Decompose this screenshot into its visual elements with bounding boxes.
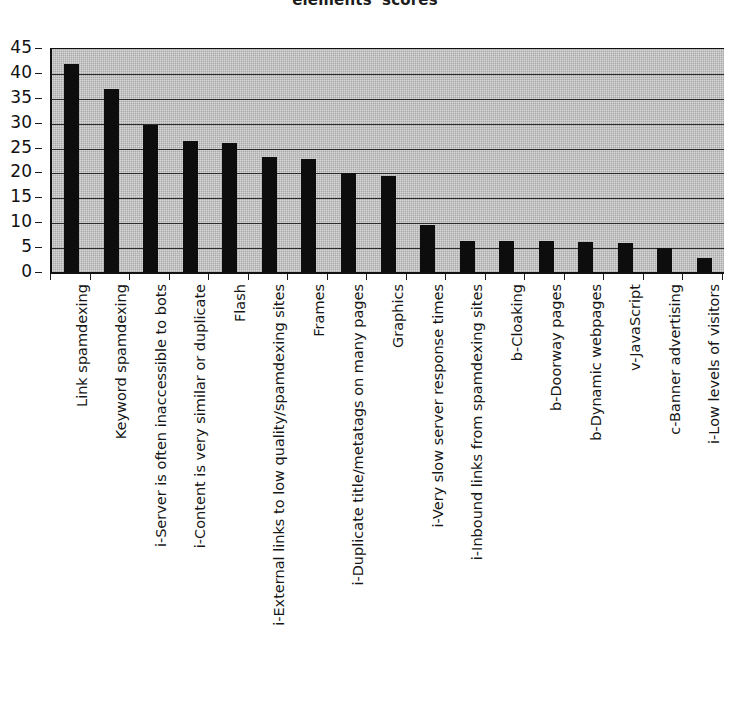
y-tick-mark [35,123,42,124]
x-axis-label-text: i-Content is very similar or duplicate [193,284,208,548]
y-tick-mark [35,247,42,248]
x-axis-label: i-Very slow server response times [431,284,446,528]
x-axis-label-text: v-JavaScript [628,284,643,371]
y-axis: 051015202530354045 [0,40,42,280]
bar [578,242,593,273]
x-axis-label-text: i-Low levels of visitors [707,284,722,444]
x-tick-mark [682,274,683,280]
x-tick-mark [722,274,723,280]
x-axis-label-text: b-Cloaking [510,284,525,361]
bar [143,125,158,273]
x-tick-mark [603,274,604,280]
bar [183,141,198,273]
y-tick-label: 35 [10,89,32,106]
x-axis-label: i-Duplicate title/metatags on many pages [351,284,366,586]
y-tick-mark [35,148,42,149]
x-tick-mark [406,274,407,280]
x-axis-label: v-JavaScript [628,284,643,371]
x-axis-label-text: i-Duplicate title/metatags on many pages [351,284,366,586]
x-axis-label: Frames [312,284,327,337]
x-tick-mark [564,274,565,280]
bar-chart: elements' scores 051015202530354045 Link… [0,0,730,724]
x-tick-mark [445,274,446,280]
x-axis-label-text: i-Very slow server response times [431,284,446,528]
y-tick-label: 15 [10,188,32,205]
x-axis-label: b-Dynamic webpages [589,284,604,441]
y-tick-mark [35,98,42,99]
bar [64,64,79,273]
x-axis-label: Graphics [391,284,406,348]
bar [657,248,672,273]
x-axis-label-text: i-Server is often inaccessible to bots [154,284,169,547]
x-tick-mark [366,274,367,280]
x-tick-mark [485,274,486,280]
bar [539,241,554,273]
x-tick-mark [50,274,51,280]
bar [301,159,316,273]
x-axis-label-text: b-Dynamic webpages [589,284,604,441]
y-tick-label: 5 [21,238,32,255]
x-tick-mark [248,274,249,280]
bars-series [52,49,724,273]
bar [460,241,475,273]
x-tick-mark [208,274,209,280]
x-axis-label-text: Graphics [391,284,406,348]
x-axis-label-text: Frames [312,284,327,337]
bar [262,157,277,273]
y-tick-mark [35,48,42,49]
bar [341,173,356,273]
x-axis-label-text: Keyword spamdexing [114,284,129,439]
bar [222,143,237,273]
y-tick-label: 20 [10,163,32,180]
x-axis-label: b-Cloaking [510,284,525,361]
chart-title: elements' scores [0,0,730,8]
bar [381,176,396,273]
bar [499,241,514,273]
x-tick-mark [129,274,130,280]
y-tick-label: 10 [10,213,32,230]
x-tick-mark [643,274,644,280]
y-tick-mark [35,272,42,273]
y-tick-label: 0 [21,263,32,280]
x-axis-labels: Link spamdexingKeyword spamdexingi-Serve… [50,284,724,684]
bar [420,225,435,273]
bar [697,258,712,273]
y-tick-label: 45 [10,39,32,56]
y-tick-mark [35,73,42,74]
x-axis-label: i-Inbound links from spamdexing sites [470,284,485,560]
x-axis-label-text: c-Banner advertising [668,284,683,435]
x-axis-label: Keyword spamdexing [114,284,129,439]
y-tick-label: 40 [10,64,32,81]
x-axis-label-text: Link spamdexing [75,284,90,407]
x-tick-mark [90,274,91,280]
y-tick-label: 30 [10,114,32,131]
x-axis-label-text: b-Doorway pages [549,284,564,411]
x-axis-label: c-Banner advertising [668,284,683,435]
x-axis-label-text: Flash [233,284,248,322]
x-axis-ticks [50,274,724,281]
x-tick-mark [169,274,170,280]
x-axis-label: i-Content is very similar or duplicate [193,284,208,548]
y-tick-mark [35,197,42,198]
y-tick-mark [35,222,42,223]
bar [104,89,119,273]
x-axis-label: i-Low levels of visitors [707,284,722,444]
y-tick-mark [35,172,42,173]
x-axis-label: Flash [233,284,248,322]
x-axis-label: i-External links to low quality/spamdexi… [272,284,287,626]
x-axis-label: Link spamdexing [75,284,90,407]
x-axis-label: b-Doorway pages [549,284,564,411]
x-axis-label-text: i-External links to low quality/spamdexi… [272,284,287,626]
x-tick-mark [287,274,288,280]
x-tick-mark [327,274,328,280]
bar [618,243,633,273]
plot-area [50,48,724,273]
x-tick-mark [524,274,525,280]
x-axis-label: i-Server is often inaccessible to bots [154,284,169,547]
y-tick-label: 25 [10,139,32,156]
x-axis-label-text: i-Inbound links from spamdexing sites [470,284,485,560]
